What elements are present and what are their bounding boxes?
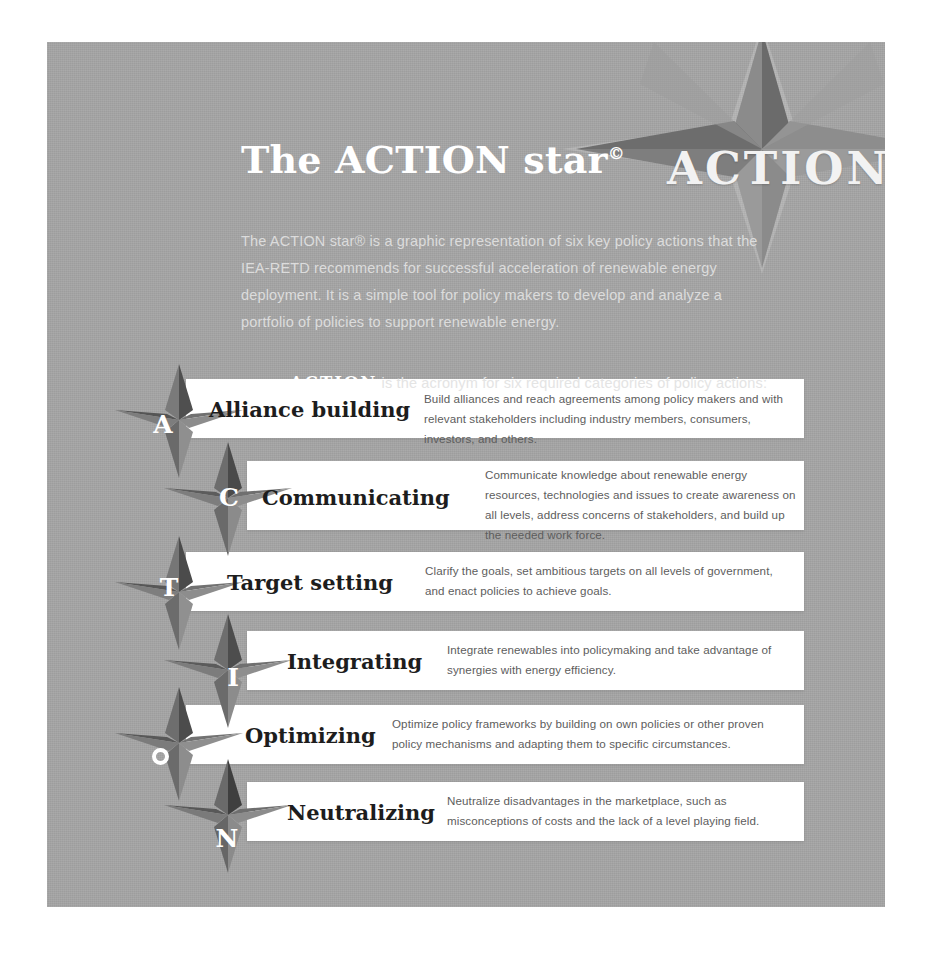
row-description-t: Clarify the goals, set ambitious targets…: [425, 561, 785, 601]
row-description-c: Communicate knowledge about renewable en…: [485, 465, 802, 545]
star-icon-n: N: [162, 757, 294, 875]
page-title-text: The ACTION star: [241, 137, 608, 182]
copyright-mark: ©: [608, 143, 625, 163]
row-description-o: Optimize policy frameworks by building o…: [392, 714, 792, 754]
page-canvas: ACTION The ACTION star© The ACTION star®…: [0, 0, 925, 955]
row-label-i: Integrating: [287, 649, 422, 674]
acronym-keyword: ACTION: [290, 373, 377, 392]
row-label-o: Optimizing: [245, 723, 376, 748]
page-title: The ACTION star©: [241, 137, 625, 182]
action-star-poster-panel: ACTION The ACTION star© The ACTION star®…: [47, 42, 885, 907]
row-label-t: Target setting: [227, 570, 393, 595]
logo-wordmark: ACTION: [667, 137, 885, 199]
row-label-n: Neutralizing: [287, 800, 435, 825]
row-label-a: Alliance building: [209, 397, 410, 422]
row-label-c: Communicating: [262, 485, 450, 510]
row-description-a: Build alliances and reach agreements amo…: [424, 389, 794, 449]
row-description-n: Neutralize disadvantages in the marketpl…: [447, 791, 792, 831]
row-description-i: Integrate renewables into policymaking a…: [447, 640, 792, 680]
intro-paragraph: The ACTION star® is a graphic representa…: [241, 228, 771, 336]
